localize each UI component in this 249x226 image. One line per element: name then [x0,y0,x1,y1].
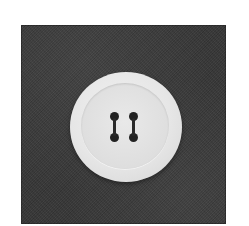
thread-right [132,118,135,136]
photo-frame [21,25,226,224]
button-object [70,72,182,182]
thread-left [113,118,116,136]
button-inner-rim [81,83,169,169]
